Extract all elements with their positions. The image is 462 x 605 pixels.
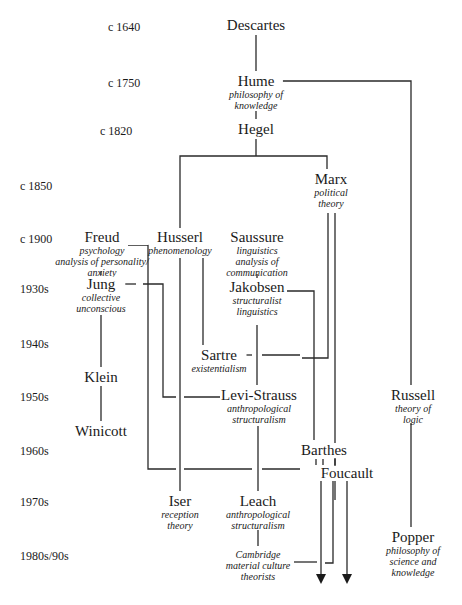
thinker-name: Husserl xyxy=(148,230,211,245)
era-label: 1980s/90s xyxy=(20,549,69,564)
node-jung: Jungcollectiveunconscious xyxy=(76,277,125,314)
node-russell: Russelltheory oflogic xyxy=(390,388,436,425)
thinker-name: Popper xyxy=(386,530,440,545)
thinker-description: knowledge xyxy=(229,101,283,111)
thinker-description: analysis of xyxy=(226,257,288,267)
thinker-description: structuralism xyxy=(226,521,290,531)
thinker-name: Jung xyxy=(76,277,125,292)
thinker-description: theory xyxy=(314,199,349,209)
era-label: c 1640 xyxy=(108,20,140,35)
node-husserl: Husserlphenomenology xyxy=(148,230,211,256)
thinker-description: psychology xyxy=(55,246,148,256)
arrow-down-icon xyxy=(316,574,326,584)
node-iser: Iserreceptiontheory xyxy=(161,494,198,531)
node-hegel: Hegel xyxy=(237,122,275,137)
thinker-description: science and xyxy=(386,557,440,567)
era-label: 1940s xyxy=(20,337,49,352)
thinker-description: existentialism xyxy=(192,364,247,374)
thinker-description: linguistics xyxy=(226,246,288,256)
node-sartre: Sartreexistentialism xyxy=(192,348,247,374)
era-label: 1950s xyxy=(20,390,49,405)
thinker-name: Descartes xyxy=(226,18,286,33)
thinker-description: material culture xyxy=(226,561,290,571)
thinker-description: collective xyxy=(76,293,125,303)
thinker-description: anthropological xyxy=(226,510,290,520)
thinker-name: Hume xyxy=(229,74,283,89)
era-label: 1930s xyxy=(20,282,49,297)
arrowheads xyxy=(316,574,352,584)
thinker-name: Levi-Strauss xyxy=(220,388,298,403)
thinker-description: knowledge xyxy=(386,568,440,578)
era-label: 1970s xyxy=(20,495,49,510)
thinker-name: Foucault xyxy=(320,466,375,481)
thinker-description: theory xyxy=(161,521,198,531)
thinker-description: philosophy of xyxy=(386,546,440,556)
arrow-down-icon xyxy=(342,574,352,584)
node-descartes: Descartes xyxy=(226,18,286,33)
thinker-description: philosophy of xyxy=(229,90,283,100)
node-foucault: Foucault xyxy=(320,466,375,481)
node-winicott: Winicott xyxy=(74,424,128,439)
thinker-description: analysis of personality/ xyxy=(55,257,148,267)
thinker-name: Winicott xyxy=(74,424,128,439)
thinker-description: communication xyxy=(226,268,288,278)
thinker-name: Saussure xyxy=(226,230,288,245)
era-label: c 1850 xyxy=(20,179,52,194)
node-hume: Humephilosophy ofknowledge xyxy=(229,74,283,111)
thinker-description: phenomenology xyxy=(148,246,211,256)
thinker-description: Cambridge xyxy=(226,550,290,560)
era-label: c 1900 xyxy=(20,232,52,247)
thinker-name: Barthes xyxy=(300,443,348,458)
thinker-description: linguistics xyxy=(229,307,286,317)
thinker-name: Sartre xyxy=(192,348,247,363)
node-leach: Leachanthropologicalstructuralism xyxy=(226,494,290,531)
thinker-description: structuralism xyxy=(220,415,298,425)
node-levi-strauss: Levi-Straussanthropologicalstructuralism xyxy=(220,388,298,425)
thinker-name: Marx xyxy=(314,172,349,187)
era-label: 1960s xyxy=(20,444,49,459)
thinker-description: reception xyxy=(161,510,198,520)
thinker-description: political xyxy=(314,188,349,198)
thinker-name: Iser xyxy=(161,494,198,509)
thinker-name: Freud xyxy=(55,230,148,245)
node-cambridge: Cambridgematerial culturetheorists xyxy=(226,549,290,582)
thinker-description: theorists xyxy=(226,572,290,582)
era-label: c 1750 xyxy=(108,76,140,91)
node-jakobsen: Jakobsenstructuralistlinguistics xyxy=(229,280,286,317)
node-popper: Popperphilosophy ofscience andknowledge xyxy=(386,530,440,578)
thinker-name: Leach xyxy=(226,494,290,509)
thinker-name: Hegel xyxy=(237,122,275,137)
node-freud: Freudpsychologyanalysis of personality/a… xyxy=(55,230,148,278)
node-barthes: Barthes xyxy=(300,443,348,458)
thinker-description: theory of xyxy=(390,404,436,414)
node-klein: Klein xyxy=(83,370,118,385)
node-marx: Marxpoliticaltheory xyxy=(314,172,349,209)
thinker-description: anthropological xyxy=(220,404,298,414)
thinker-name: Russell xyxy=(390,388,436,403)
thinker-description: unconscious xyxy=(76,304,125,314)
node-saussure: Saussurelinguisticsanalysis ofcommunicat… xyxy=(226,230,288,278)
thinker-name: Jakobsen xyxy=(229,280,286,295)
thinker-name: Klein xyxy=(83,370,118,385)
thinker-description: structuralist xyxy=(229,296,286,306)
era-label: c 1820 xyxy=(100,124,132,139)
thinker-description: logic xyxy=(390,415,436,425)
